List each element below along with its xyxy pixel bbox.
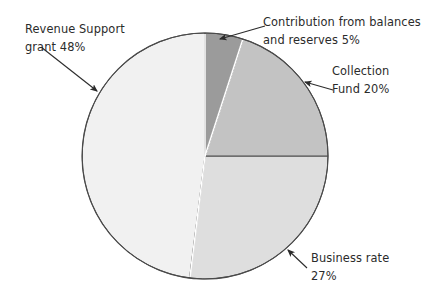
pie-chart-figure: Revenue Support grant 48% Contribution f… [0, 0, 443, 299]
label-revenue-support-grant-line1: Revenue Support [25, 22, 125, 36]
label-business-rate-line1: Business rate [311, 251, 389, 265]
label-collection-fund-line2: Fund 20% [332, 82, 389, 96]
label-business-rate-line2: 27% [311, 269, 337, 283]
pie-slice-revenue-support-grant[interactable] [82, 33, 205, 278]
label-contribution-line2: and reserves 5% [263, 33, 360, 47]
pie-chart-svg: Revenue Support grant 48% Contribution f… [0, 0, 443, 299]
arrow-collection-fund [305, 82, 333, 90]
arrow-contribution [220, 26, 265, 39]
label-revenue-support-grant-line2: grant 48% [25, 40, 85, 54]
label-contribution-line1: Contribution from balances [263, 15, 421, 29]
pie-slice-business-rate[interactable] [190, 156, 328, 279]
pie-slices [82, 33, 328, 279]
label-collection-fund-line1: Collection [332, 64, 389, 78]
arrow-business-rate [288, 250, 307, 268]
